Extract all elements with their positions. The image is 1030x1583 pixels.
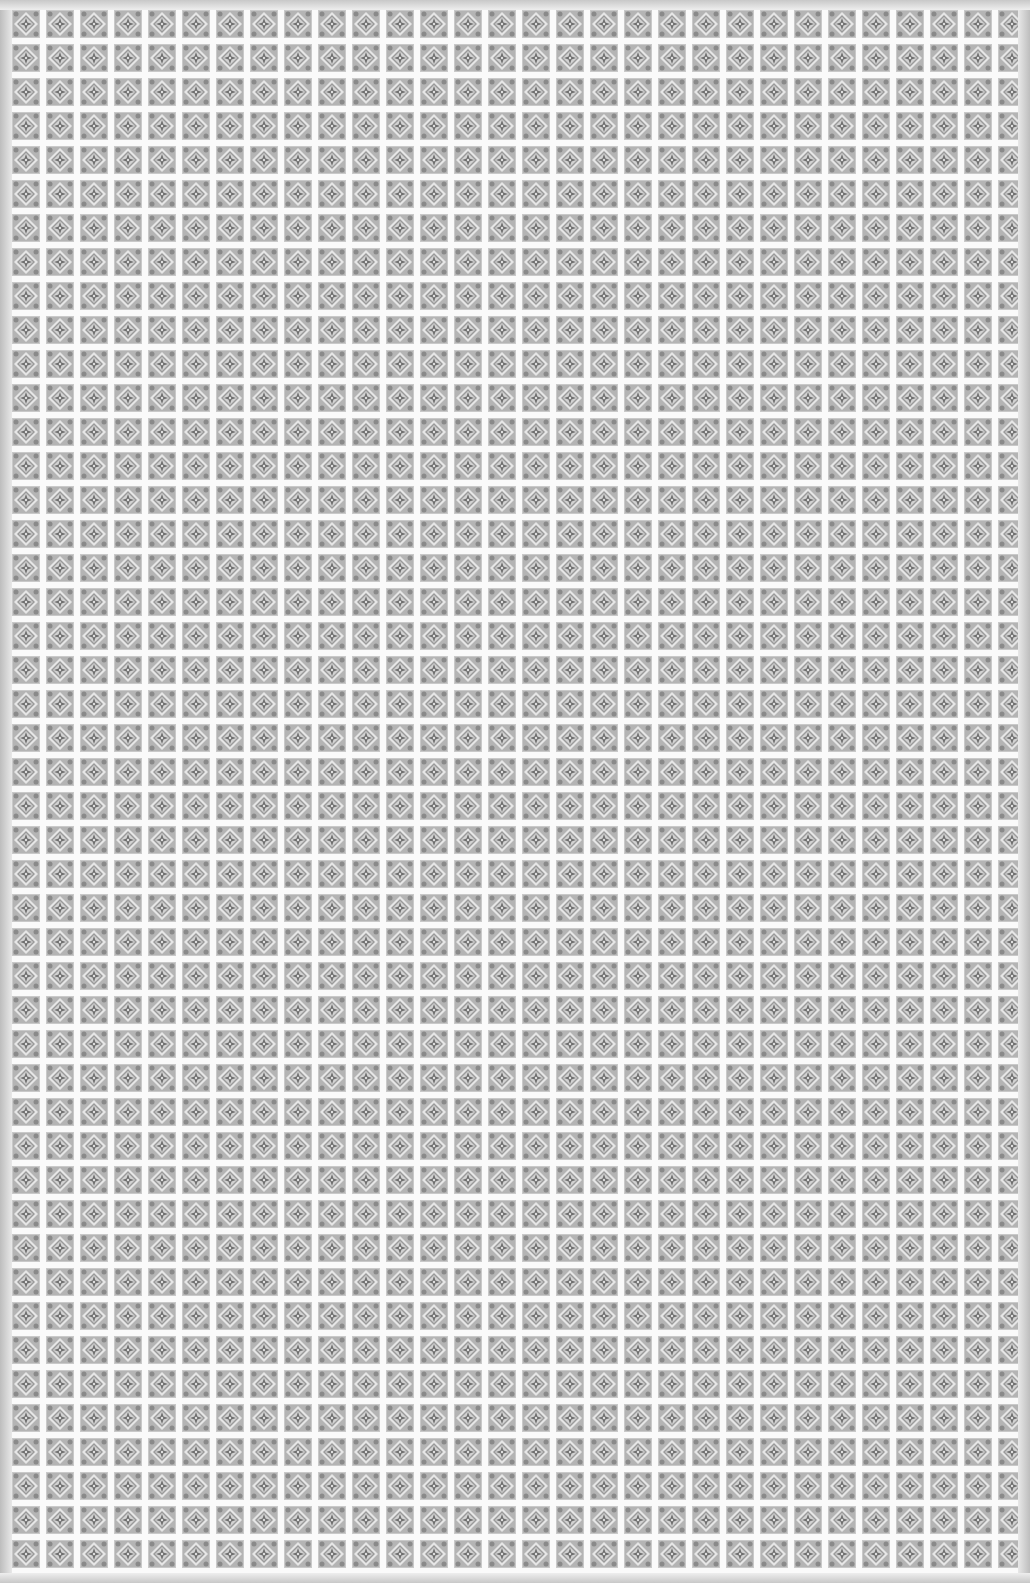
top-edge-shadow [0, 0, 1030, 10]
pattern-canvas [0, 0, 1030, 1583]
tile-fill [10, 8, 1020, 1575]
tile-pattern [10, 8, 1020, 1575]
right-edge-shadow [1018, 0, 1030, 1583]
left-edge-shadow [0, 0, 12, 1583]
bottom-edge-shadow [0, 1573, 1030, 1583]
